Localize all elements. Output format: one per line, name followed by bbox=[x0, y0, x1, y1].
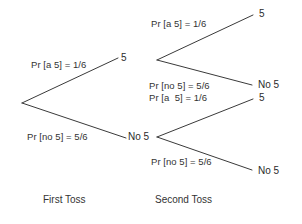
tree-branch-lines bbox=[0, 0, 302, 224]
edge-bottom-5 bbox=[157, 99, 253, 137]
branch-label-second-top-no5: Pr [no 5] = 5/6 bbox=[149, 80, 210, 91]
node-first-toss-5: 5 bbox=[121, 52, 127, 63]
leaf-no5-then-5: 5 bbox=[259, 92, 265, 103]
branch-label-second-top-a5: Pr [a 5] = 1/6 bbox=[151, 18, 206, 29]
branch-label-first-a5: Pr [a 5] = 1/6 bbox=[31, 59, 86, 70]
probability-tree-diagram: Pr [a 5] = 1/6 Pr [no 5] = 5/6 Pr [a 5] … bbox=[0, 0, 302, 224]
stage-label-second-toss: Second Toss bbox=[155, 194, 212, 206]
branch-label-second-bottom-a5: Pr [a 5] = 1/6 bbox=[149, 92, 207, 103]
leaf-no5-then-no5: No 5 bbox=[258, 165, 279, 176]
stage-label-first-toss: First Toss bbox=[43, 194, 86, 206]
leaf-5-then-no5: No 5 bbox=[258, 79, 279, 90]
branch-label-second-bottom-no5: Pr [no 5] = 5/6 bbox=[151, 156, 212, 167]
node-first-toss-no5: No 5 bbox=[128, 131, 149, 142]
branch-label-first-no5: Pr [no 5] = 5/6 bbox=[27, 131, 88, 142]
leaf-5-then-5: 5 bbox=[259, 8, 265, 19]
